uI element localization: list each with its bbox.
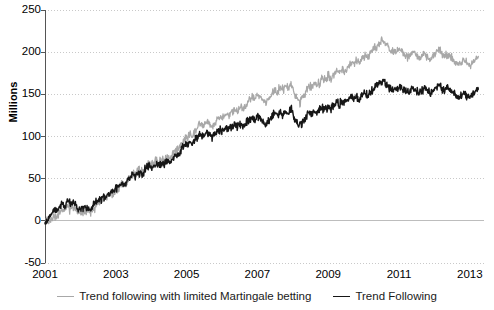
plot-area: [0, 0, 494, 310]
legend-item[interactable]: Trend following with limited Martingale …: [57, 290, 311, 302]
x-axis-tick-label: 2001: [22, 268, 68, 280]
chart-legend: Trend following with limited Martingale …: [0, 286, 494, 306]
legend-label: Trend following with limited Martingale …: [79, 290, 311, 302]
y-axis-tick-labels: -50050100150200250: [0, 0, 41, 310]
y-axis-tick-label: 250: [1, 4, 41, 15]
gridlines: [45, 10, 484, 263]
y-axis-tick-label: 200: [1, 46, 41, 57]
x-axis-tick-label: 2005: [164, 268, 210, 280]
y-axis-tick-label: -50: [1, 257, 41, 268]
legend-label: Trend Following: [355, 290, 436, 302]
x-axis-tick-label: 2009: [305, 268, 351, 280]
y-axis-tick-label: 100: [1, 131, 41, 142]
x-axis-tick-label: 2013: [447, 268, 493, 280]
series-lines: [45, 37, 478, 224]
legend-color-swatch: [57, 296, 74, 297]
chart-container: Millions -50050100150200250 200120032005…: [0, 0, 494, 310]
y-axis-tick-label: 0: [1, 215, 41, 226]
y-axis-tick-label: 50: [1, 173, 41, 184]
x-axis-tick-label: 2011: [376, 268, 422, 280]
series-line: [45, 79, 478, 224]
legend-item[interactable]: Trend Following: [333, 290, 436, 302]
legend-color-swatch: [333, 296, 350, 297]
x-axis-tick-label: 2003: [93, 268, 139, 280]
x-axis-tick-label: 2007: [234, 268, 280, 280]
y-axis-tick-label: 150: [1, 88, 41, 99]
